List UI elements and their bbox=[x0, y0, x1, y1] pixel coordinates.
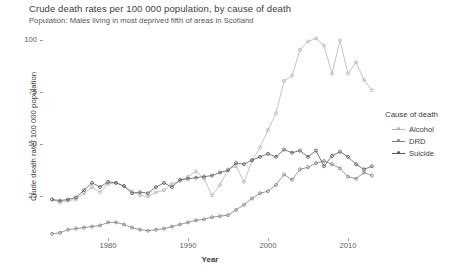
series-line bbox=[52, 38, 372, 202]
y-tick-mark bbox=[40, 92, 43, 93]
plot-panel bbox=[44, 30, 380, 238]
legend: Cause of death AlcoholDRDSuicide bbox=[385, 110, 438, 159]
legend-label: DRD bbox=[409, 137, 425, 146]
x-tick-mark bbox=[268, 238, 269, 241]
x-tick-label: 1990 bbox=[168, 241, 208, 250]
y-tick-label: 75 bbox=[0, 87, 37, 96]
series-drd bbox=[51, 160, 374, 236]
x-tick-label: 2010 bbox=[328, 241, 368, 250]
x-tick-mark bbox=[348, 238, 349, 241]
y-tick-label: 25 bbox=[0, 191, 37, 200]
series-line bbox=[52, 150, 372, 201]
y-tick-label: 100 bbox=[0, 35, 37, 44]
legend-title: Cause of death bbox=[385, 110, 438, 119]
legend-label: Suicide bbox=[409, 149, 434, 158]
legend-key-icon bbox=[392, 136, 405, 146]
x-tick-label: 2000 bbox=[248, 241, 288, 250]
legend-label: Alcohol bbox=[409, 125, 434, 134]
y-tick-mark bbox=[40, 196, 43, 197]
x-tick-mark bbox=[108, 238, 109, 241]
x-tick-mark bbox=[188, 238, 189, 241]
chart-title: Crude death rates per 100 000 population… bbox=[29, 3, 291, 14]
legend-items: AlcoholDRDSuicide bbox=[385, 123, 438, 159]
chart-subtitle: Population: Males living in most deprive… bbox=[29, 16, 254, 25]
y-tick-mark bbox=[40, 144, 43, 145]
legend-item-suicide[interactable]: Suicide bbox=[392, 147, 438, 159]
plot-lines bbox=[44, 30, 380, 238]
chart-root: Crude death rates per 100 000 population… bbox=[0, 0, 460, 277]
legend-item-alcohol[interactable]: Alcohol bbox=[392, 123, 438, 135]
y-axis-label: Crude death rate/ 100 000 population bbox=[29, 37, 38, 237]
x-axis-label: Year bbox=[40, 255, 380, 264]
legend-key-icon bbox=[392, 124, 405, 134]
y-tick-label: 50 bbox=[0, 139, 37, 148]
series-line bbox=[52, 161, 372, 234]
legend-key-icon bbox=[392, 148, 405, 158]
legend-item-drd[interactable]: DRD bbox=[392, 135, 438, 147]
series-alcohol bbox=[51, 37, 374, 204]
x-tick-label: 1980 bbox=[88, 241, 128, 250]
y-tick-mark bbox=[40, 40, 43, 41]
